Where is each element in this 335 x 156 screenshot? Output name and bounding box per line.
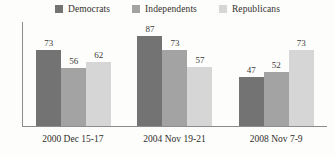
legend-label-independents: Independents: [145, 4, 197, 14]
bar-rect: [264, 72, 289, 126]
bar-value-label: 62: [94, 50, 103, 61]
bar-democrats-2000: 73: [36, 22, 61, 126]
legend-swatch-independents: [132, 5, 140, 13]
bar-democrats-2004: 87: [137, 22, 162, 126]
bar-rect: [239, 77, 264, 126]
bar-republicans-2004: 57: [187, 22, 212, 126]
x-tick-label-2004: 2004 Nov 19-21: [124, 133, 226, 149]
legend-label-democrats: Democrats: [68, 4, 110, 14]
bar-republicans-2000: 62: [86, 22, 111, 126]
bar-group-2004: 87 73 57: [124, 22, 225, 126]
bar-rect: [86, 62, 111, 126]
x-tick-label-2000: 2000 Dec 15-17: [22, 133, 124, 149]
bar-independents-2008: 52: [264, 22, 289, 126]
bar-value-label: 73: [44, 38, 53, 49]
legend-item-democrats: Democrats: [55, 4, 110, 14]
bar-rect: [162, 50, 187, 126]
bar-value-label: 52: [272, 60, 281, 71]
bar-group-2008: 47 52 73: [226, 22, 327, 126]
bar-independents-2000: 56: [61, 22, 86, 126]
bar-rect: [289, 50, 314, 126]
bar-value-label: 73: [170, 38, 179, 49]
grouped-bar-chart: Democrats Independents Republicans 73 56: [0, 0, 335, 156]
x-tick-label-2008: 2008 Nov 7-9: [225, 133, 327, 149]
legend-swatch-republicans: [219, 5, 227, 13]
x-axis-line: [22, 126, 327, 127]
bar-value-label: 56: [69, 56, 78, 67]
bar-value-label: 57: [195, 55, 204, 66]
chart-legend: Democrats Independents Republicans: [0, 0, 335, 17]
legend-swatch-democrats: [55, 5, 63, 13]
bar-value-label: 73: [297, 38, 306, 49]
legend-item-republicans: Republicans: [219, 4, 280, 14]
bar-independents-2004: 73: [162, 22, 187, 126]
x-axis-tick-labels: 2000 Dec 15-17 2004 Nov 19-21 2008 Nov 7…: [22, 133, 327, 149]
bar-rect: [36, 50, 61, 126]
bar-democrats-2008: 47: [239, 22, 264, 126]
legend-label-republicans: Republicans: [232, 4, 280, 14]
bar-rect: [187, 67, 212, 126]
plot-area: 73 56 62 87 73: [22, 22, 327, 127]
bar-rect: [61, 68, 86, 126]
bar-group-2000: 73 56 62: [23, 22, 124, 126]
bar-rect: [137, 36, 162, 126]
bar-republicans-2008: 73: [289, 22, 314, 126]
bar-value-label: 47: [247, 65, 256, 76]
bar-groups: 73 56 62 87 73: [23, 22, 327, 126]
bar-value-label: 87: [145, 24, 154, 35]
legend-item-independents: Independents: [132, 4, 197, 14]
